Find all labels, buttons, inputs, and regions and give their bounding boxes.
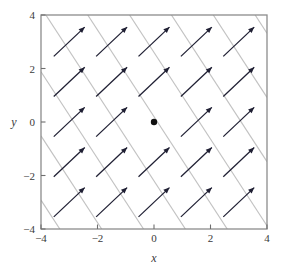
phase-plane-plot: −4−2024−4−2024 x y xyxy=(0,0,283,273)
equilibrium-dot xyxy=(151,119,157,125)
x-axis-tick-label: 4 xyxy=(264,232,270,244)
y-axis-tick-label: 2 xyxy=(30,63,36,75)
y-axis-tick-label: −2 xyxy=(23,170,35,182)
y-axis-tick-label: 0 xyxy=(30,116,36,128)
x-axis-title: x xyxy=(150,251,157,265)
y-axis-tick-label: −4 xyxy=(23,223,35,235)
y-axis-title: y xyxy=(10,115,17,129)
y-axis-tick-label: 4 xyxy=(30,9,36,21)
x-axis-tick-label: 2 xyxy=(208,232,214,244)
x-axis-tick-label: 0 xyxy=(151,232,157,244)
x-axis-tick-label: −2 xyxy=(92,232,104,244)
direction-field-figure: −4−2024−4−2024 x y xyxy=(0,0,283,273)
x-axis-tick-label: −4 xyxy=(35,232,47,244)
equilibrium-point-marker xyxy=(151,119,157,125)
